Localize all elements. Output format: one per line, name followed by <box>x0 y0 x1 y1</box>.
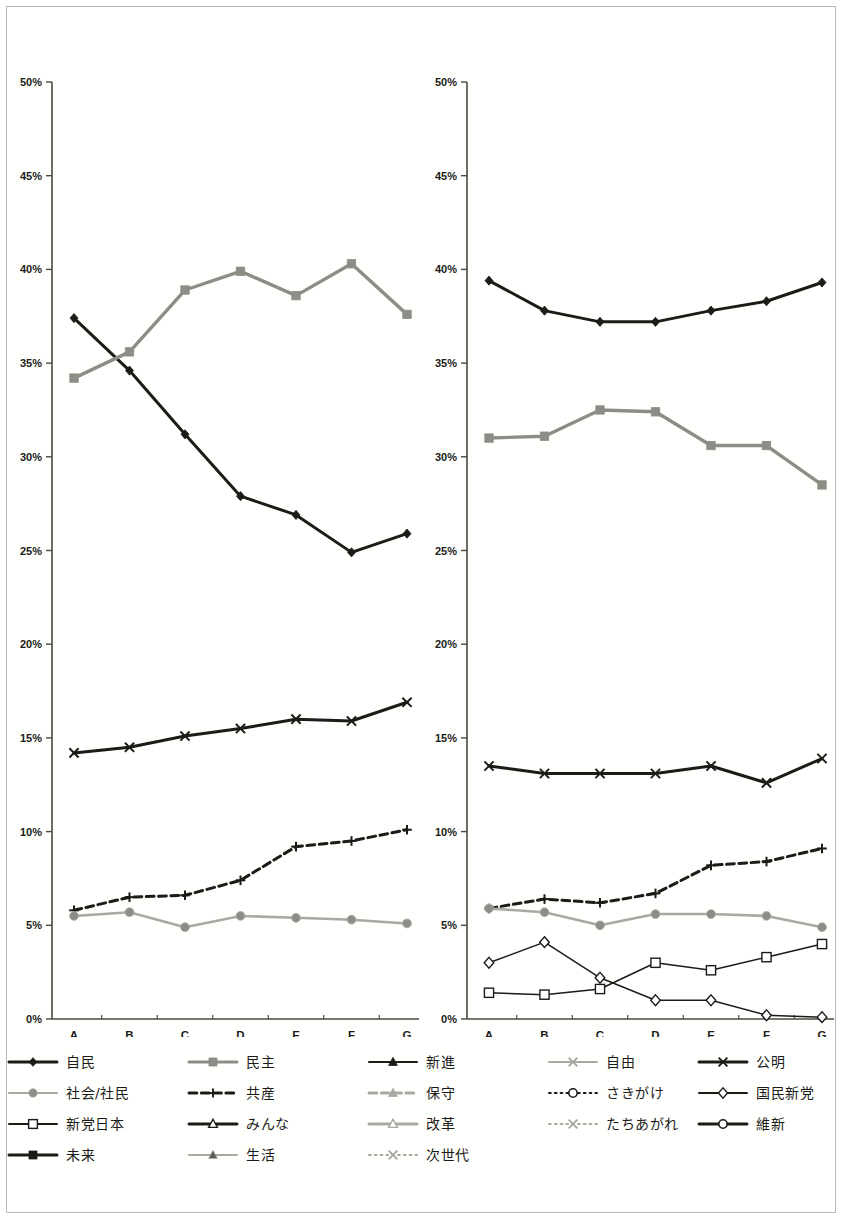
legend-key-swatch <box>367 1116 419 1132</box>
legend-key-swatch <box>547 1054 599 1070</box>
legend-item[interactable]: たちあがれ <box>547 1107 697 1138</box>
legend-item[interactable]: 未来 <box>7 1138 187 1169</box>
svg-text:20%: 20% <box>435 638 457 650</box>
svg-text:D: D <box>651 1029 659 1037</box>
legend-item-label: たちあがれ <box>606 1113 679 1133</box>
legend-marker-icon <box>187 1054 239 1068</box>
svg-text:G: G <box>403 1029 412 1037</box>
legend-key-swatch <box>187 1054 239 1070</box>
legend-marker-icon <box>7 1054 59 1068</box>
svg-text:15%: 15% <box>435 732 457 744</box>
legend-item[interactable]: 生活 <box>187 1138 367 1169</box>
left-chart-panel: 0%5%10%15%20%25%30%35%40%45%50%ABCDEFG <box>7 7 422 1037</box>
legend-item-label: 生活 <box>246 1144 275 1164</box>
legend-item-label: 保守 <box>426 1082 455 1102</box>
legend-item-label: 公明 <box>756 1051 785 1071</box>
svg-text:45%: 45% <box>20 170 42 182</box>
series-6 <box>484 937 827 1023</box>
svg-text:E: E <box>292 1029 300 1037</box>
series-4 <box>69 825 412 915</box>
series-7 <box>484 939 826 999</box>
series-5 <box>485 904 827 932</box>
legend-key-swatch <box>697 1054 749 1070</box>
charts-container: 0%5%10%15%20%25%30%35%40%45%50%ABCDEFG 0… <box>7 7 837 1037</box>
legend-item[interactable]: 共産 <box>187 1076 367 1107</box>
svg-text:F: F <box>348 1029 355 1037</box>
svg-text:A: A <box>70 1029 78 1037</box>
series-1 <box>70 314 411 557</box>
legend-marker-icon <box>187 1116 239 1130</box>
svg-text:10%: 10% <box>435 826 457 838</box>
svg-text:10%: 10% <box>20 826 42 838</box>
legend-key-swatch <box>547 1085 599 1101</box>
legend-marker-icon <box>367 1085 419 1099</box>
legend-item-label: 新党日本 <box>66 1113 124 1133</box>
legend-item-label: さきがけ <box>606 1082 664 1102</box>
legend-marker-icon <box>367 1116 419 1130</box>
svg-text:35%: 35% <box>435 357 457 369</box>
legend-marker-icon <box>547 1054 599 1068</box>
legend-item[interactable]: 国民新党 <box>697 1076 837 1107</box>
legend-key-swatch <box>187 1116 239 1132</box>
legend-key-swatch <box>7 1085 59 1101</box>
legend-key-swatch <box>367 1085 419 1101</box>
legend-item[interactable]: 自由 <box>547 1045 697 1076</box>
legend-marker-icon <box>697 1054 749 1068</box>
legend-item[interactable]: 自民 <box>7 1045 187 1076</box>
legend-item[interactable]: 保守 <box>367 1076 547 1107</box>
legend-item[interactable]: 新党日本 <box>7 1107 187 1138</box>
legend-item-label: 新進 <box>426 1051 455 1071</box>
legend-grid: 自民民主新進自由公明社会/社民共産保守さきがけ国民新党新党日本みんな改革たちあが… <box>7 1045 837 1169</box>
legend-item-label: 維新 <box>756 1113 785 1133</box>
svg-text:45%: 45% <box>435 170 457 182</box>
legend-marker-icon <box>7 1147 59 1161</box>
svg-text:B: B <box>540 1029 548 1037</box>
legend-marker-icon <box>697 1116 749 1130</box>
legend-marker-icon <box>7 1116 59 1130</box>
series-5 <box>70 908 412 932</box>
legend-key-swatch <box>7 1116 59 1132</box>
legend-item[interactable]: 新進 <box>367 1045 547 1076</box>
svg-text:0%: 0% <box>441 1013 457 1025</box>
legend-item-label: 共産 <box>246 1082 275 1102</box>
svg-text:C: C <box>181 1029 189 1037</box>
page-frame: 0%5%10%15%20%25%30%35%40%45%50%ABCDEFG 0… <box>6 6 836 1213</box>
legend-item-label: 国民新党 <box>756 1082 814 1102</box>
legend-marker-icon <box>697 1085 749 1099</box>
legend-item[interactable]: 公明 <box>697 1045 837 1076</box>
series-1 <box>485 276 826 326</box>
svg-text:G: G <box>818 1029 827 1037</box>
legend-marker-icon <box>547 1116 599 1130</box>
svg-text:A: A <box>485 1029 493 1037</box>
series-3 <box>69 698 411 758</box>
legend-item[interactable]: みんな <box>187 1107 367 1138</box>
legend-item-label: 自民 <box>66 1051 95 1071</box>
legend-key-swatch <box>7 1147 59 1163</box>
svg-text:0%: 0% <box>26 1013 42 1025</box>
legend-item[interactable]: 民主 <box>187 1045 367 1076</box>
legend-marker-icon <box>7 1085 59 1099</box>
legend-item[interactable]: さきがけ <box>547 1076 697 1107</box>
legend-marker-icon <box>367 1054 419 1068</box>
legend-item-label: 次世代 <box>426 1144 470 1164</box>
legend-item[interactable]: 改革 <box>367 1107 547 1138</box>
svg-text:5%: 5% <box>26 919 42 931</box>
legend-item-label: 改革 <box>426 1113 455 1133</box>
svg-text:50%: 50% <box>435 76 457 88</box>
legend-key-swatch <box>547 1116 599 1132</box>
legend-marker-icon <box>367 1147 419 1161</box>
series-2 <box>485 406 826 489</box>
legend-marker-icon <box>187 1085 239 1099</box>
legend-item-label: みんな <box>246 1113 290 1133</box>
legend-item[interactable]: 維新 <box>697 1107 837 1138</box>
svg-text:25%: 25% <box>20 545 42 557</box>
legend-item[interactable]: 次世代 <box>367 1138 547 1169</box>
legend-key-swatch <box>697 1116 749 1132</box>
legend-key-swatch <box>367 1054 419 1070</box>
series-4 <box>484 844 827 914</box>
series-3 <box>484 754 826 788</box>
legend-key-swatch <box>187 1147 239 1163</box>
svg-text:20%: 20% <box>20 638 42 650</box>
legend-key-swatch <box>187 1085 239 1101</box>
legend-item[interactable]: 社会/社民 <box>7 1076 187 1107</box>
